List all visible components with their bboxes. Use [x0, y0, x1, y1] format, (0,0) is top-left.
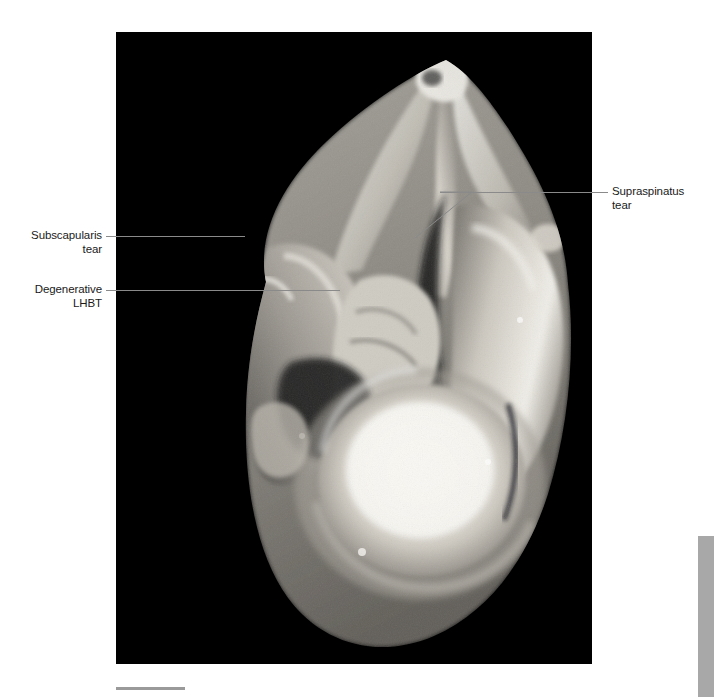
- leader-line-degenerative-lhbt: [106, 290, 340, 291]
- page-edge-tab: [698, 536, 714, 697]
- leader-line-supraspinatus-branch: [410, 185, 472, 245]
- leader-line-subscapularis: [106, 236, 245, 237]
- specimen-photograph: [116, 32, 592, 664]
- annotation-supraspinatus-tear: Supraspinatus tear: [612, 184, 714, 212]
- specimen-photograph-image: [116, 32, 592, 664]
- annotation-degenerative-lhbt: Degenerative LHBT: [0, 282, 102, 310]
- annotation-subscapularis-tear: Subscapularis tear: [0, 228, 102, 256]
- caption-rule: [116, 687, 185, 690]
- figure-page: Subscapularis tear Degenerative LHBT Sup…: [0, 0, 714, 697]
